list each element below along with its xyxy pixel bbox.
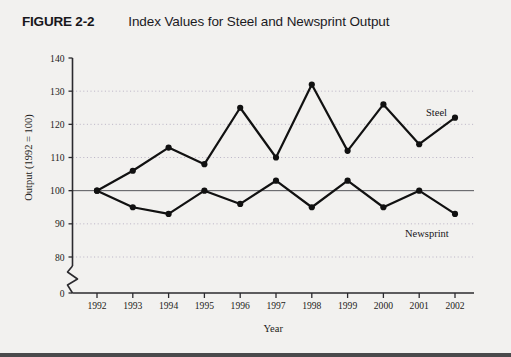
- data-point-steel-1995: [201, 161, 207, 167]
- data-point-steel-1998: [309, 81, 315, 87]
- data-point-newsprint-1992: [94, 188, 100, 194]
- series-line-steel: [97, 85, 455, 191]
- data-point-steel-2001: [416, 141, 422, 147]
- y-axis-title: Output (1992 = 100): [23, 114, 35, 201]
- x-tick-label: 1995: [195, 300, 214, 311]
- data-point-steel-1999: [345, 148, 351, 154]
- x-axis-title: Year: [264, 323, 284, 334]
- data-point-steel-2000: [380, 101, 386, 107]
- x-tick-label: 1997: [266, 300, 285, 311]
- series-line-newsprint: [97, 181, 455, 214]
- chart-plot-area: 14013012011010090800 1992199319941995199…: [0, 0, 511, 357]
- data-point-newsprint-1993: [130, 204, 136, 210]
- data-markers-group: [94, 81, 458, 217]
- data-point-newsprint-1994: [166, 211, 172, 217]
- data-series-group: [97, 85, 455, 214]
- line-chart-svg: 14013012011010090800 1992199319941995199…: [0, 0, 511, 357]
- data-point-newsprint-2001: [416, 188, 422, 194]
- data-point-steel-1993: [130, 168, 136, 174]
- x-tick-label: 2000: [374, 300, 393, 311]
- x-axis-tick-labels: 1992199319941995199619971998199920002001…: [87, 300, 464, 311]
- y-tick-label: 130: [50, 86, 65, 97]
- x-tick-label: 1996: [231, 300, 250, 311]
- x-tick-label: 1994: [159, 300, 178, 311]
- data-point-newsprint-1996: [237, 201, 243, 207]
- x-tick-label: 1992: [87, 300, 106, 311]
- data-point-steel-2002: [452, 115, 458, 121]
- x-tick-label: 2001: [410, 300, 429, 311]
- data-point-newsprint-1998: [309, 204, 315, 210]
- y-tick-label: 90: [55, 218, 65, 229]
- x-tick-label: 1999: [338, 300, 357, 311]
- y-tick-label: 80: [55, 252, 65, 263]
- data-point-steel-1996: [237, 105, 243, 111]
- data-point-newsprint-2000: [380, 204, 386, 210]
- axes-group: [68, 58, 475, 293]
- y-tick-label-zero: 0: [60, 288, 65, 299]
- y-tick-label: 120: [50, 119, 65, 130]
- data-point-newsprint-2002: [452, 211, 458, 217]
- data-point-steel-1997: [273, 154, 279, 160]
- axis-ticks-group: [69, 58, 456, 298]
- data-point-newsprint-1997: [273, 178, 279, 184]
- x-tick-label: 2002: [445, 300, 464, 311]
- data-point-steel-1994: [166, 144, 172, 150]
- figure-container: FIGURE 2-2 Index Values for Steel and Ne…: [0, 0, 511, 357]
- data-point-newsprint-1999: [345, 178, 351, 184]
- bottom-rule: [0, 353, 511, 357]
- data-point-newsprint-1995: [201, 188, 207, 194]
- y-axis-tick-labels: 14013012011010090800: [50, 53, 65, 299]
- series-label-steel: Steel: [426, 107, 447, 118]
- x-tick-label: 1998: [302, 300, 321, 311]
- y-tick-label: 110: [50, 152, 64, 163]
- x-tick-label: 1993: [123, 300, 142, 311]
- y-tick-label: 100: [50, 185, 65, 196]
- y-tick-label: 140: [50, 53, 65, 64]
- series-label-newsprint: Newsprint: [405, 228, 449, 239]
